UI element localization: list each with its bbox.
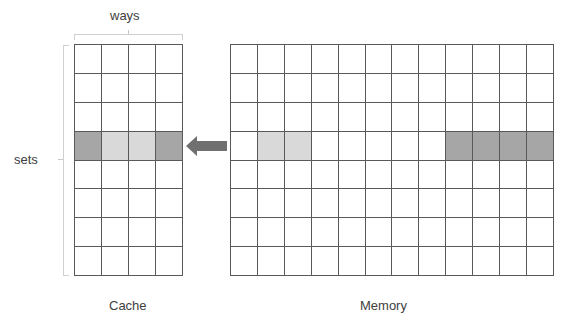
memory-cell <box>446 103 473 132</box>
ways-bracket-tick <box>128 30 129 34</box>
memory-cell <box>527 247 554 276</box>
memory-cell <box>446 218 473 247</box>
cache-cell <box>129 45 156 74</box>
cache-cell <box>156 132 183 161</box>
cache-cell <box>156 45 183 74</box>
memory-cell <box>392 218 419 247</box>
memory-grid <box>230 44 554 276</box>
memory-cell <box>366 218 393 247</box>
memory-cell <box>446 132 473 161</box>
cache-cell <box>156 161 183 190</box>
arrow-left-icon <box>186 135 228 157</box>
memory-cell <box>285 74 312 103</box>
ways-bracket <box>74 34 183 40</box>
memory-cell <box>312 218 339 247</box>
memory-cell <box>285 218 312 247</box>
cache-cell <box>129 161 156 190</box>
cache-cell <box>102 189 129 218</box>
cache-cell <box>75 132 102 161</box>
memory-cell <box>500 132 527 161</box>
memory-cell <box>473 132 500 161</box>
memory-cell <box>500 161 527 190</box>
cache-cell <box>102 45 129 74</box>
memory-cell <box>419 103 446 132</box>
memory-cell <box>339 74 366 103</box>
memory-cell <box>419 189 446 218</box>
memory-cell <box>473 161 500 190</box>
memory-cell <box>231 103 258 132</box>
cache-cell <box>75 161 102 190</box>
memory-cell <box>392 103 419 132</box>
memory-cell <box>527 132 554 161</box>
cache-cell <box>129 189 156 218</box>
cache-label: Cache <box>109 298 147 313</box>
memory-cell <box>231 189 258 218</box>
memory-cell <box>258 218 285 247</box>
memory-cell <box>366 132 393 161</box>
memory-cell <box>473 103 500 132</box>
memory-cell <box>231 74 258 103</box>
memory-cell <box>473 45 500 74</box>
memory-cell <box>231 218 258 247</box>
cache-cell <box>129 103 156 132</box>
memory-cell <box>285 103 312 132</box>
memory-cell <box>366 247 393 276</box>
cache-cell <box>129 247 156 276</box>
memory-cell <box>419 45 446 74</box>
memory-cell <box>527 103 554 132</box>
memory-cell <box>339 161 366 190</box>
cache-cell <box>129 74 156 103</box>
cache-grid <box>74 44 183 276</box>
memory-cell <box>366 74 393 103</box>
cache-cell <box>156 218 183 247</box>
memory-cell <box>258 247 285 276</box>
memory-cell <box>446 247 473 276</box>
memory-cell <box>527 218 554 247</box>
memory-cell <box>339 218 366 247</box>
memory-cell <box>312 74 339 103</box>
memory-cell <box>392 74 419 103</box>
cache-cell <box>75 45 102 74</box>
memory-cell <box>312 247 339 276</box>
cache-cell <box>75 247 102 276</box>
memory-cell <box>285 161 312 190</box>
cache-cell <box>156 247 183 276</box>
memory-cell <box>231 161 258 190</box>
memory-cell <box>339 103 366 132</box>
memory-cell <box>446 74 473 103</box>
memory-cell <box>500 247 527 276</box>
memory-cell <box>446 45 473 74</box>
memory-cell <box>312 189 339 218</box>
memory-cell <box>392 132 419 161</box>
cache-cell <box>156 103 183 132</box>
memory-cell <box>258 161 285 190</box>
memory-cell <box>446 161 473 190</box>
memory-cell <box>285 45 312 74</box>
memory-cell <box>366 103 393 132</box>
cache-cell <box>102 218 129 247</box>
memory-cell <box>285 247 312 276</box>
memory-cell <box>285 189 312 218</box>
sets-bracket <box>63 45 69 276</box>
ways-label: ways <box>110 8 140 23</box>
memory-cell <box>419 132 446 161</box>
memory-cell <box>473 247 500 276</box>
memory-cell <box>231 247 258 276</box>
memory-cell <box>339 45 366 74</box>
memory-cell <box>312 132 339 161</box>
memory-cell <box>392 45 419 74</box>
memory-cell <box>366 189 393 218</box>
memory-cell <box>312 161 339 190</box>
cache-cell <box>102 74 129 103</box>
memory-cell <box>419 161 446 190</box>
memory-cell <box>312 103 339 132</box>
memory-cell <box>392 161 419 190</box>
memory-cell <box>419 74 446 103</box>
memory-cell <box>527 45 554 74</box>
memory-cell <box>419 247 446 276</box>
memory-cell <box>366 45 393 74</box>
memory-label: Memory <box>360 298 407 313</box>
memory-cell <box>231 45 258 74</box>
memory-cell <box>527 74 554 103</box>
memory-cell <box>285 132 312 161</box>
